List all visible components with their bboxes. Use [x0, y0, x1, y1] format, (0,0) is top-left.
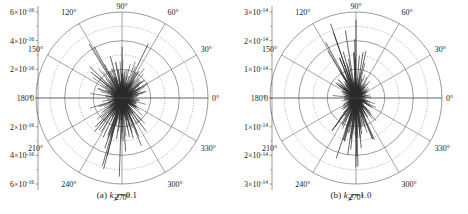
- caption-b-prefix: (b): [331, 190, 344, 200]
- radial-axis-tick-label: 2×10-16: [10, 122, 34, 132]
- radial-axis-tick-label: 3×10-14: [244, 7, 268, 17]
- figure-polar-scattering-pair: 0°30°60°90°120°150°180°210°240°270°300°3…: [0, 0, 468, 214]
- polar-grid-spoke: [313, 98, 356, 172]
- angle-tick-label-120: 120°: [295, 8, 310, 17]
- angle-tick-label-0: 0°: [446, 94, 453, 103]
- radial-axis-tick-label: 2×10-16: [10, 65, 34, 75]
- caption-b: (b) k3r=1.0: [234, 190, 468, 202]
- angle-tick-label-330: 330°: [435, 144, 450, 153]
- angle-tick-label-240: 240°: [295, 180, 310, 189]
- angle-tick-label-60: 60°: [402, 8, 413, 17]
- panel-b: 0°30°60°90°120°150°180°210°240°270°300°3…: [234, 0, 468, 214]
- angle-tick-label-150: 150°: [28, 45, 43, 54]
- caption-b-value: =1.0: [355, 190, 372, 200]
- angle-tick-label-240: 240°: [61, 180, 76, 189]
- angle-tick-label-0: 0°: [212, 94, 219, 103]
- polar-chart-a: 0°30°60°90°120°150°180°210°240°270°300°3…: [0, 0, 234, 214]
- radial-axis-tick-label: 4×10-16: [10, 151, 34, 161]
- radial-axis-tick-label: 6×10-16: [10, 7, 34, 17]
- radial-axis-tick-label: 1×10-14: [244, 65, 268, 75]
- radial-axis-tick-label: 3×10-14: [244, 179, 268, 189]
- angle-tick-label-300: 300°: [168, 180, 183, 189]
- angle-tick-label-150: 150°: [262, 45, 277, 54]
- polar-data-spikes: [89, 44, 148, 177]
- angle-tick-label-120: 120°: [61, 8, 76, 17]
- radial-axis-tick-label: 6×10-16: [10, 179, 34, 189]
- radial-axis-tick-label: 1×10-14: [244, 122, 268, 132]
- angle-tick-label-330: 330°: [201, 144, 216, 153]
- angle-tick-label-300: 300°: [402, 180, 417, 189]
- caption-a-prefix: (a): [97, 190, 110, 200]
- angle-tick-label-90: 90°: [116, 2, 127, 11]
- angle-tick-label-30: 30°: [201, 45, 212, 54]
- caption-a: (a) k3r=0.1: [0, 190, 234, 202]
- radial-axis-tick-label: 0: [30, 94, 34, 103]
- angle-tick-label-30: 30°: [435, 45, 446, 54]
- angle-tick-label-90: 90°: [350, 2, 361, 11]
- angle-tick-label-60: 60°: [168, 8, 179, 17]
- polar-chart-b: 0°30°60°90°120°150°180°210°240°270°300°3…: [234, 0, 468, 214]
- panel-a: 0°30°60°90°120°150°180°210°240°270°300°3…: [0, 0, 234, 214]
- radial-axis-tick-label: 0: [264, 94, 268, 103]
- caption-a-value: =0.1: [120, 190, 137, 200]
- radial-axis-tick-label: 2×10-14: [244, 151, 268, 161]
